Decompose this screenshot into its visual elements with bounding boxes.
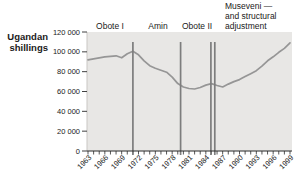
svg-text:0: 0 xyxy=(76,147,80,156)
svg-text:1984: 1984 xyxy=(193,153,211,171)
svg-text:1981: 1981 xyxy=(176,153,194,171)
svg-text:1963: 1963 xyxy=(75,153,93,171)
svg-text:40 000: 40 000 xyxy=(57,107,80,116)
shillings-line-chart: 020 00040 00060 00080 000100 000120 0001… xyxy=(0,0,295,183)
svg-text:1999: 1999 xyxy=(277,153,295,171)
svg-text:1966: 1966 xyxy=(92,153,110,171)
svg-text:60 000: 60 000 xyxy=(57,87,80,96)
svg-text:1990: 1990 xyxy=(227,153,245,171)
svg-text:80 000: 80 000 xyxy=(57,67,80,76)
svg-text:1969: 1969 xyxy=(109,153,127,171)
svg-text:100 000: 100 000 xyxy=(53,47,80,56)
svg-text:1993: 1993 xyxy=(244,153,262,171)
svg-text:1987: 1987 xyxy=(210,153,228,171)
svg-text:1996: 1996 xyxy=(260,153,278,171)
svg-text:20 000: 20 000 xyxy=(57,127,80,136)
svg-text:120 000: 120 000 xyxy=(53,28,80,37)
svg-text:1978: 1978 xyxy=(159,153,177,171)
svg-text:1975: 1975 xyxy=(143,153,161,171)
chart-figure: Ugandan shillings Obote I Amin Obote II … xyxy=(0,0,295,183)
svg-text:1972: 1972 xyxy=(126,153,144,171)
